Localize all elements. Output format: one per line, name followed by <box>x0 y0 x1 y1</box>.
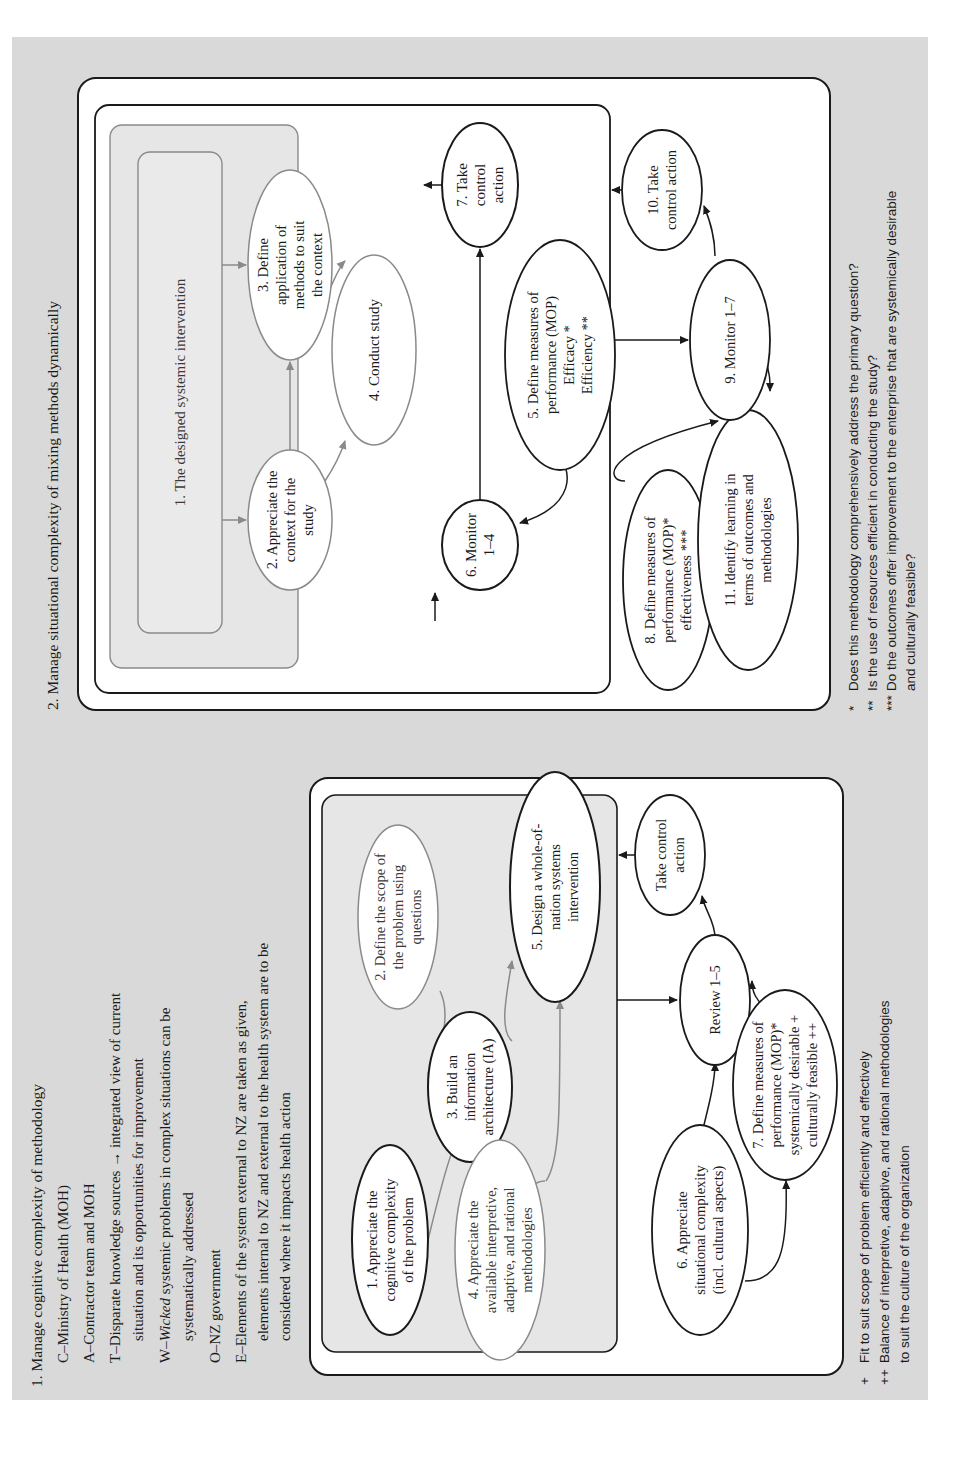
worldview-rest: systemic problems in complex situations … <box>157 1008 173 1298</box>
s1-node-5-label: 5. Design a whole-of- nation systems int… <box>510 772 600 1002</box>
s2-node-3-label: 3. Define application of methods to suit… <box>248 170 332 360</box>
legend-mark: *** <box>883 691 900 711</box>
legend-mark: * <box>845 691 862 711</box>
legend-text: Does this methodology comprehensively ad… <box>846 263 861 691</box>
s2-legend-star1: *Does this methodology comprehensively a… <box>845 263 862 711</box>
s2-node-7-label: 7. Take control action <box>442 123 518 247</box>
catwoe-environment: E–Elements of the system external to NZ … <box>232 1000 251 1363</box>
s1-node-control-label: Take control action <box>635 795 705 915</box>
section2-title: 2. Manage situational complexity of mixi… <box>44 301 62 710</box>
worldview-prefix: W– <box>157 1341 173 1363</box>
s1-legend-plusplus-cont: to suit the culture of the organization <box>896 1145 913 1363</box>
catwoe-transformation-cont: situation and its opportunities for impr… <box>129 1058 148 1341</box>
s2-node-2-label: 2. Appreciate the context for the study <box>248 450 332 590</box>
catwoe-environment-cont1: elements internal to NZ and external to … <box>254 943 273 1341</box>
rotated-figure: 1. Manage cognitive complexity of method… <box>0 0 965 1481</box>
s1-node-2-label: 2. Define the scope of the problem using… <box>358 825 438 1009</box>
legend-text: Is the use of resources efficient in con… <box>865 355 880 691</box>
section1-title: 1. Manage cognitive complexity of method… <box>28 1084 46 1387</box>
legend-text: Do the outcomes offer improvement to the… <box>884 191 899 691</box>
s2-legend-star3: ***Do the outcomes offer improvement to … <box>883 191 900 711</box>
worldview-italic: Wicked <box>157 1298 173 1341</box>
catwoe-owner: O–NZ government <box>206 1249 225 1363</box>
s1-node-7-label: 7. Define measures of performance (MOP)*… <box>733 990 837 1180</box>
catwoe-environment-cont2: considered where it impacts health actio… <box>276 1092 295 1341</box>
s2-node-6-label: 6. Monitor 1–4 <box>442 500 518 590</box>
s2-node-5-label: 5. Define measures of performance (MOP) … <box>505 240 615 470</box>
s2-legend-star3-cont: and culturally feasible? <box>902 554 919 691</box>
legend-mark: ++ <box>876 1363 893 1385</box>
s2-node-9-label: 9. Monitor 1–7 <box>690 260 770 420</box>
catwoe-worldview: W–Wicked systemic problems in complex si… <box>156 1008 175 1363</box>
s2-node-4-label: 4. Conduct study <box>332 255 416 445</box>
catwoe-worldview-cont: systematically addressed <box>179 1192 198 1341</box>
legend-mark: + <box>856 1363 873 1385</box>
s2-legend-star2: **Is the use of resources efficient in c… <box>864 355 881 711</box>
s1-node-4-label: 4. Appreciate the available interpretive… <box>455 1140 545 1360</box>
catwoe-transformation: T–Disparate knowledge sources → integrat… <box>106 993 125 1363</box>
s2-node-11-label: 11. Identify learning in terms of outcom… <box>698 410 798 670</box>
catwoe-actors: A–Contractor team and MOH <box>80 1183 99 1363</box>
legend-mark: ** <box>864 691 881 711</box>
catwoe-customers: C–Ministry of Health (MOH) <box>54 1185 73 1363</box>
s2-node-1-label: 1. The designed systemic intervention <box>138 152 222 633</box>
s1-legend-plusplus: ++Balance of interpretive, adaptive, and… <box>876 1001 893 1385</box>
s1-node-1-label: 1. Appreciate the cognitive complexity o… <box>352 1145 428 1335</box>
legend-text: Balance of interpretive, adaptive, and r… <box>877 1001 892 1363</box>
s2-node-10-label: 10. Take control action <box>622 130 702 250</box>
legend-text: Fit to suit scope of problem efficiently… <box>857 1051 872 1363</box>
s1-legend-plus: +Fit to suit scope of problem efficientl… <box>856 1051 873 1385</box>
